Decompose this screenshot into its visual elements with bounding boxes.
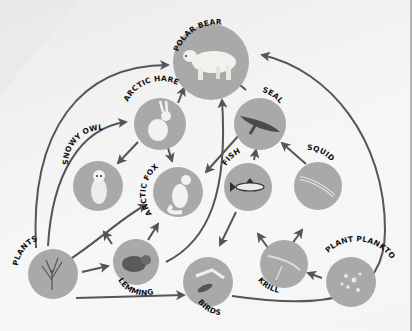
node-krill: KRILL bbox=[256, 240, 308, 295]
arrow-hare-to-owl bbox=[118, 142, 138, 163]
arrow-fish-to-seal bbox=[254, 150, 256, 160]
node-polar-bear: POLAR BEAR bbox=[171, 17, 249, 100]
label-arctic-hare: ARCTIC HARE bbox=[122, 74, 181, 103]
arrow-squid-to-seal bbox=[282, 143, 306, 164]
node-lemming: LEMMING bbox=[113, 239, 159, 297]
arrow-lemming-to-owl bbox=[104, 232, 112, 244]
node-seal: SEAL bbox=[234, 85, 286, 150]
arrow-hare-to-polar-bear bbox=[178, 88, 184, 103]
food-web-diagram: POLAR BEAR ARCTIC HARE SEAL SNOWY OWL bbox=[0, 0, 412, 331]
node-fish: FISH bbox=[220, 146, 272, 211]
arrow-fish-to-birds bbox=[220, 212, 236, 245]
arrow-plants-to-birds bbox=[76, 295, 184, 298]
arrow-plants-to-lemming bbox=[82, 266, 108, 272]
node-arctic-hare: ARCTIC HARE bbox=[122, 74, 186, 150]
node-birds: BIRDS bbox=[183, 257, 233, 317]
arrow-plants-to-polar-bear bbox=[36, 65, 168, 248]
snowy-owl-icon bbox=[91, 170, 107, 204]
arrow-plankton-to-krill bbox=[308, 273, 322, 278]
node-squid: SQUID bbox=[294, 143, 342, 210]
label-squid: SQUID bbox=[307, 143, 337, 163]
arrow-krill-to-squid bbox=[292, 230, 302, 244]
arrow-lemming-to-fox bbox=[148, 224, 158, 240]
arrow-krill-to-fish bbox=[258, 234, 268, 248]
node-arctic-fox: ARCTIC FOX bbox=[138, 162, 203, 218]
node-plants: PLANTS bbox=[11, 234, 78, 299]
arrow-hare-to-fox bbox=[168, 148, 172, 161]
